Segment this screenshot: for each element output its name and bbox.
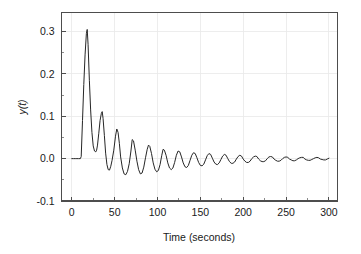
x-tick-label: 0 bbox=[69, 206, 75, 218]
y-tick-label: 0.2 bbox=[40, 68, 55, 80]
x-tick-label: 200 bbox=[234, 206, 252, 218]
x-tick-label: 250 bbox=[277, 206, 295, 218]
damped-oscillation-line-chart: 050100150200250300 -0.10.00.10.20.3 Time… bbox=[0, 0, 361, 254]
x-tick-label: 300 bbox=[320, 206, 338, 218]
x-axis-title: Time (seconds) bbox=[163, 231, 235, 243]
chart-figure: 050100150200250300 -0.10.00.10.20.3 Time… bbox=[0, 0, 361, 254]
y-tick-label: 0.3 bbox=[40, 25, 55, 37]
x-tick-label: 50 bbox=[109, 206, 121, 218]
y-tick-label: 0.0 bbox=[40, 152, 55, 164]
y-tick-label: 0.1 bbox=[40, 110, 55, 122]
x-tick-label: 150 bbox=[192, 206, 210, 218]
figure-background bbox=[0, 0, 361, 254]
y-tick-label: -0.1 bbox=[36, 195, 54, 207]
x-tick-label: 100 bbox=[149, 206, 167, 218]
y-axis-title: y(t) bbox=[16, 99, 28, 115]
